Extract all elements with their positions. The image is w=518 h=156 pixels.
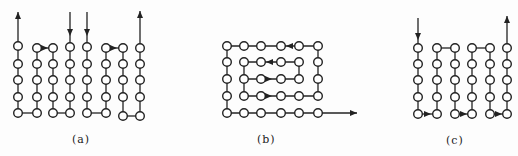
panel-a-raster-scan — [14, 11, 145, 120]
grid-node-circle — [468, 110, 477, 119]
grid-node-circle — [83, 109, 92, 118]
grid-node-circle — [66, 109, 75, 118]
grid-node-circle — [451, 93, 460, 102]
grid-node-circle — [257, 42, 266, 51]
grid-node-circle — [83, 60, 92, 69]
grid-node-circle — [119, 60, 128, 69]
grid-node-circle — [49, 109, 58, 118]
grid-node-circle — [136, 44, 145, 53]
scan-path-diagram: (a) (b) (c) — [0, 0, 518, 156]
grid-node-circle — [295, 92, 304, 101]
grid-node-circle — [414, 110, 423, 119]
arrow-left-icon — [286, 43, 293, 49]
grid-node-circle — [451, 76, 460, 85]
grid-node-circle — [257, 92, 266, 101]
grid-node-circle — [223, 109, 232, 118]
grid-node-circle — [468, 93, 477, 102]
arrow-right-icon — [460, 111, 467, 117]
grid-node-circle — [119, 112, 128, 121]
grid-node-circle — [83, 76, 92, 85]
grid-node-circle — [102, 76, 111, 85]
grid-node-circle — [503, 110, 512, 119]
grid-node-circle — [240, 92, 249, 101]
grid-node-circle — [102, 93, 111, 102]
grid-node-circle — [136, 112, 145, 121]
grid-node-circle — [119, 76, 128, 85]
arrow-up-icon — [504, 16, 510, 23]
grid-node-circle — [49, 93, 58, 102]
grid-node-circle — [414, 60, 423, 69]
grid-node-circle — [49, 60, 58, 69]
grid-node-circle — [314, 42, 323, 51]
grid-node-circle — [503, 93, 512, 102]
grid-node-circle — [102, 109, 111, 118]
grid-node-circle — [33, 44, 42, 53]
grid-node-circle — [433, 76, 442, 85]
grid-node-circle — [49, 44, 58, 53]
grid-node-circle — [468, 76, 477, 85]
grid-node-circle — [277, 58, 286, 67]
panel-a-label: (a) — [72, 133, 90, 146]
grid-node-circle — [14, 109, 23, 118]
grid-node-circle — [66, 76, 75, 85]
arrow-right-icon — [110, 45, 117, 51]
grid-node-circle — [433, 93, 442, 102]
arrow-down-icon — [84, 29, 90, 36]
grid-node-circle — [314, 58, 323, 67]
grid-node-circle — [433, 44, 442, 53]
grid-node-circle — [102, 44, 111, 53]
grid-node-circle — [277, 42, 286, 51]
grid-node-circle — [414, 93, 423, 102]
grid-node-circle — [295, 109, 304, 118]
arrow-right-icon — [495, 111, 502, 117]
grid-node-circle — [257, 58, 266, 67]
grid-node-circle — [314, 92, 323, 101]
grid-node-circle — [433, 110, 442, 119]
grid-node-circle — [503, 76, 512, 85]
grid-node-circle — [240, 75, 249, 84]
grid-node-circle — [295, 58, 304, 67]
panel-b-spiral-scan — [223, 42, 357, 118]
grid-node-circle — [414, 76, 423, 85]
arrow-up-icon — [15, 12, 21, 19]
grid-node-circle — [486, 76, 495, 85]
grid-node-circle — [66, 93, 75, 102]
grid-node-circle — [486, 60, 495, 69]
grid-node-circle — [295, 75, 304, 84]
grid-node-circle — [14, 93, 23, 102]
grid-node-circle — [277, 75, 286, 84]
grid-node-circle — [277, 92, 286, 101]
grid-node-circle — [14, 76, 23, 85]
grid-node-circle — [295, 42, 304, 51]
grid-node-circle — [414, 44, 423, 53]
panel-b-label: (b) — [257, 133, 276, 146]
grid-node-circle — [223, 92, 232, 101]
grid-node-circle — [433, 60, 442, 69]
grid-node-circle — [486, 44, 495, 53]
grid-node-circle — [223, 75, 232, 84]
arrow-down-icon — [67, 29, 73, 36]
grid-node-circle — [66, 43, 75, 52]
grid-node-circle — [102, 60, 111, 69]
grid-node-circle — [33, 60, 42, 69]
grid-node-circle — [451, 110, 460, 119]
grid-node-circle — [66, 60, 75, 69]
grid-node-circle — [240, 58, 249, 67]
grid-node-circle — [486, 93, 495, 102]
grid-node-circle — [257, 75, 266, 84]
arrow-right-icon — [350, 110, 357, 116]
grid-node-circle — [451, 60, 460, 69]
grid-node-circle — [468, 60, 477, 69]
grid-node-circle — [136, 93, 145, 102]
grid-node-circle — [33, 93, 42, 102]
grid-node-circle — [33, 109, 42, 118]
grid-node-circle — [468, 44, 477, 53]
panel-c-label: (c) — [446, 134, 464, 147]
grid-node-circle — [314, 109, 323, 118]
arrow-right-icon — [41, 45, 48, 51]
grid-node-circle — [33, 76, 42, 85]
grid-node-circle — [119, 93, 128, 102]
grid-node-circle — [223, 58, 232, 67]
grid-node-circle — [83, 93, 92, 102]
grid-node-circle — [257, 109, 266, 118]
